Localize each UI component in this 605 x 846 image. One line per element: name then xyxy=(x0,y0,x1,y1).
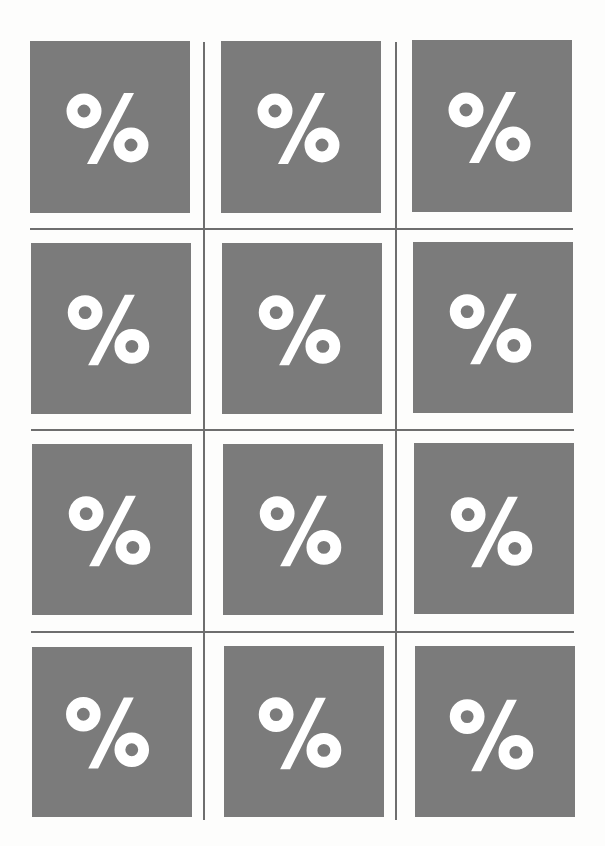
percent-icon xyxy=(414,443,574,614)
percent-tile: % xyxy=(224,646,384,817)
percent-tile: % xyxy=(30,41,190,213)
cut-line-vertical-2 xyxy=(395,42,397,820)
cut-line-horizontal-2 xyxy=(31,429,574,431)
percent-icon xyxy=(415,646,575,817)
percent-icon xyxy=(222,243,382,414)
cut-line-horizontal-1 xyxy=(30,228,573,230)
percent-tile: % xyxy=(32,444,192,615)
percent-tile: % xyxy=(415,646,575,817)
percent-tile-sheet: % % % % % % % % % % % % xyxy=(0,0,605,846)
percent-tile: % xyxy=(413,242,573,413)
percent-icon xyxy=(413,242,573,413)
percent-tile: % xyxy=(221,41,381,213)
percent-icon xyxy=(32,647,192,817)
percent-tile: % xyxy=(32,647,192,817)
percent-icon xyxy=(30,41,190,213)
percent-icon xyxy=(224,646,384,817)
percent-icon xyxy=(223,444,383,615)
percent-tile: % xyxy=(223,444,383,615)
percent-icon xyxy=(31,243,191,414)
cut-line-horizontal-3 xyxy=(31,631,574,633)
percent-icon xyxy=(32,444,192,615)
percent-tile: % xyxy=(412,40,572,212)
percent-icon xyxy=(412,40,572,212)
percent-icon xyxy=(221,41,381,213)
percent-tile: % xyxy=(31,243,191,414)
percent-tile: % xyxy=(414,443,574,614)
percent-tile: % xyxy=(222,243,382,414)
cut-line-vertical-1 xyxy=(203,42,205,820)
